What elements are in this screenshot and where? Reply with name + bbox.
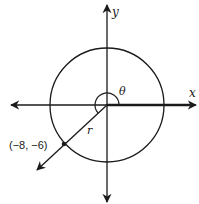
y-axis-label: y [111,5,119,19]
x-axis-label: x [189,86,196,100]
terminal-ray [37,105,107,170]
theta-label: θ [119,85,126,98]
coordinate-diagram: y x θ r (−8, −6) [0,0,199,204]
radius-label: r [87,124,93,137]
point-marker [62,142,67,147]
point-label: (−8, −6) [9,139,48,151]
